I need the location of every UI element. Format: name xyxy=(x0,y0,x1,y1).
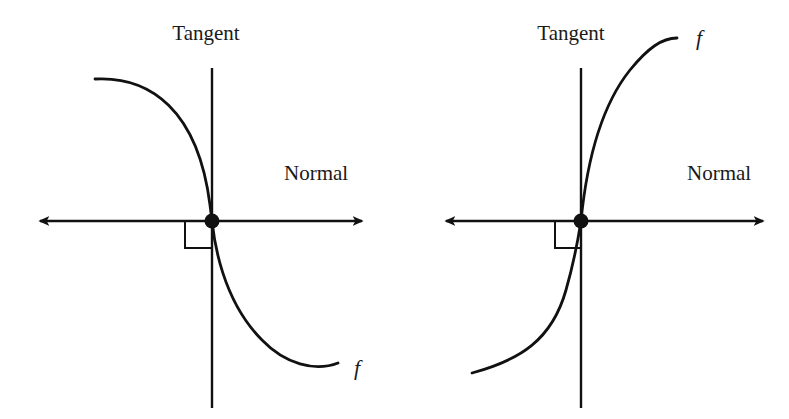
panel-left: Tangent Normal f xyxy=(40,21,363,408)
tangent-label: Tangent xyxy=(172,21,240,45)
tangent-normal-diagram: Tangent Normal f Tangent Normal f xyxy=(0,0,789,419)
normal-label: Normal xyxy=(687,161,751,185)
function-label: f xyxy=(354,355,363,380)
point-of-tangency xyxy=(574,214,589,229)
point-of-tangency xyxy=(205,214,220,229)
panel-right: Tangent Normal f xyxy=(446,21,763,408)
function-curve xyxy=(472,38,677,373)
normal-label: Normal xyxy=(284,161,348,185)
function-label: f xyxy=(696,25,705,50)
tangent-label: Tangent xyxy=(537,21,605,45)
